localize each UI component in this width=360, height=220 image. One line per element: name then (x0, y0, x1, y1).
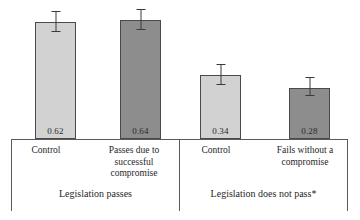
bar-value-label: 0.62 (36, 126, 75, 136)
bar-chart: 0.62 0.64 0.34 (0, 0, 360, 220)
bar-value-label: 0.28 (290, 126, 329, 136)
tick-label-control-2: Control (186, 145, 246, 157)
error-bar-cap-bottom (305, 95, 314, 96)
plot-area: 0.62 0.64 0.34 (0, 0, 360, 139)
bar-passes-due-to-successful-compromise[interactable]: 0.64 (120, 20, 161, 139)
tick-label-row: Control Passes due to successful comprom… (12, 140, 179, 188)
group-legislation-passes: Control Passes due to successful comprom… (12, 140, 179, 211)
error-bar-cap-top (136, 9, 145, 10)
error-bar-4 (309, 77, 310, 96)
axis-label-box: Control Passes due to successful comprom… (11, 139, 348, 211)
error-bar-cap-bottom (136, 29, 145, 30)
group-legislation-does-not-pass: Control Fails without a compromise Legis… (180, 140, 347, 211)
error-bar-cap-top (216, 64, 225, 65)
bar-value-label: 0.34 (201, 126, 240, 136)
bar-group-3: 0.34 (200, 75, 241, 139)
group-label-legislation-passes: Legislation passes (12, 188, 179, 199)
tick-label-passes-due-to-successful-compromise: Passes due to successful compromise (97, 145, 171, 180)
error-bar-cap-bottom (216, 84, 225, 85)
tick-label-row: Control Fails without a compromise (180, 140, 347, 188)
error-bar-1 (55, 11, 56, 32)
error-bar-cap-bottom (51, 31, 60, 32)
bar-value-label: 0.64 (121, 126, 160, 136)
error-bar-2 (140, 9, 141, 30)
error-bar-cap-top (305, 77, 314, 78)
bar-group-2: 0.64 (120, 20, 161, 139)
error-bar-3 (220, 64, 221, 85)
bar-group-4: 0.28 (289, 88, 330, 139)
bar-control-legislation-passes[interactable]: 0.62 (35, 22, 76, 139)
tick-label-fails-without-a-compromise: Fails without a compromise (268, 145, 342, 168)
error-bar-cap-top (51, 11, 60, 12)
bar-group-1: 0.62 (35, 22, 76, 139)
group-label-legislation-does-not-pass: Legislation does not pass* (180, 188, 347, 199)
tick-label-control-1: Control (16, 145, 76, 157)
